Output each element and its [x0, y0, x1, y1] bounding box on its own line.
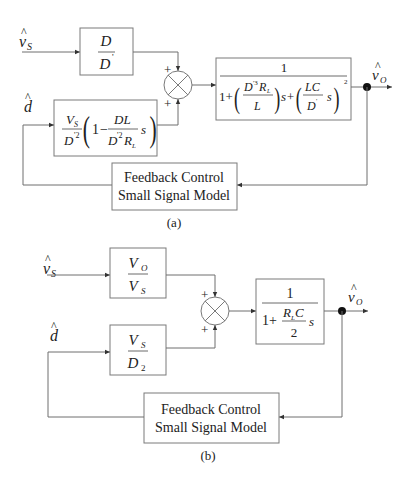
block-gain-vs-a: D D ' [80, 28, 133, 75]
svg-text:(: ( [296, 81, 302, 115]
svg-text:(: ( [234, 81, 240, 115]
block-gain-vs-b: V O V S [110, 248, 166, 298]
svg-text:'2: '2 [74, 131, 79, 140]
svg-text:s: s [309, 314, 314, 329]
svg-text:L: L [131, 142, 136, 150]
block-diagram-canvas: ^ v S D D ' + + ^ d V [0, 0, 407, 480]
svg-text:2: 2 [344, 78, 348, 86]
svg-text:'3: '3 [253, 79, 258, 87]
svg-text:D: D [243, 80, 253, 94]
svg-text:1+: 1+ [219, 89, 233, 104]
input-vs-label-a: ^ v S [19, 25, 32, 52]
svg-text:Small Signal Model: Small Signal Model [118, 188, 230, 203]
svg-text:1: 1 [92, 122, 99, 137]
output-vo-label-b: ^ v O [348, 281, 363, 307]
svg-text:2: 2 [141, 363, 146, 373]
svg-text:D: D [63, 133, 74, 148]
svg-text:): ) [149, 109, 156, 149]
svg-text:v: v [348, 289, 355, 305]
svg-text:−: − [100, 122, 108, 137]
feedback-control-block-b: Feedback Control Small Signal Model [144, 393, 279, 443]
svg-text:R: R [282, 305, 291, 320]
svg-text:v: v [372, 67, 379, 83]
svg-text:+: + [201, 287, 208, 302]
svg-text:v: v [19, 33, 27, 50]
feedback-control-block-a: Feedback Control Small Signal Model [112, 163, 237, 210]
svg-text:DL: DL [113, 112, 131, 127]
svg-text:D: D [99, 56, 111, 72]
svg-text:D: D [127, 355, 139, 371]
svg-text:C: C [295, 305, 304, 320]
svg-text:Feedback Control: Feedback Control [124, 170, 224, 185]
svg-text:O: O [356, 297, 363, 307]
svg-text:R: R [123, 133, 132, 148]
svg-text:Feedback Control: Feedback Control [161, 402, 261, 417]
svg-text:): ) [274, 81, 280, 115]
diagram-b: ^ v S V O V S + + ^ d [43, 248, 368, 463]
svg-text:': ' [316, 97, 317, 105]
svg-text:S: S [141, 340, 146, 350]
caption-a: (a) [167, 215, 181, 230]
svg-text:+: + [201, 322, 208, 337]
svg-text:L: L [253, 99, 261, 113]
svg-text:(: ( [83, 109, 90, 149]
input-d-label-a: ^ d [24, 90, 33, 115]
output-vo-label-a: ^ v O [372, 59, 387, 85]
svg-text:L: L [266, 88, 271, 94]
block-plant-a: 1 1+ ( D '3 R L L ) s+ ( LC D ' s ) 2 [216, 58, 351, 120]
svg-text:S: S [141, 286, 146, 296]
svg-text:+: + [164, 96, 171, 111]
block-plant-b: 1 1+ R L C 2 s [256, 279, 324, 344]
block-gain-d-a: V S D '2 ( 1 − DL D '2 R L s ) [54, 100, 157, 156]
svg-text:d: d [50, 327, 59, 344]
input-d-label-b: ^ d [50, 319, 59, 344]
svg-text:d: d [24, 98, 33, 115]
svg-text:O: O [380, 75, 387, 85]
svg-text:): ) [334, 81, 340, 115]
caption-b: (b) [200, 448, 215, 463]
svg-text:LC: LC [304, 80, 321, 94]
svg-text:1: 1 [281, 60, 288, 75]
block-gain-d-b: V S D 2 [110, 325, 166, 375]
svg-text:S: S [27, 41, 32, 52]
svg-text:1+: 1+ [262, 313, 277, 328]
svg-text:2: 2 [291, 325, 298, 340]
svg-text:s: s [327, 90, 332, 104]
svg-text:s: s [141, 122, 146, 137]
svg-text:v: v [43, 260, 51, 277]
diagram-a: ^ v S D D ' + + ^ d V [19, 25, 392, 230]
svg-text:D: D [100, 33, 112, 49]
svg-text:D: D [306, 99, 316, 113]
svg-text:Small Signal Model: Small Signal Model [155, 420, 267, 435]
svg-text:S: S [51, 268, 56, 279]
svg-text:S: S [74, 120, 78, 129]
svg-text:R: R [258, 80, 267, 94]
svg-text:+: + [164, 62, 171, 77]
svg-text:'2: '2 [117, 131, 122, 140]
svg-text:s+: s+ [281, 89, 295, 104]
svg-text:O: O [141, 263, 148, 273]
svg-text:1: 1 [287, 286, 294, 301]
